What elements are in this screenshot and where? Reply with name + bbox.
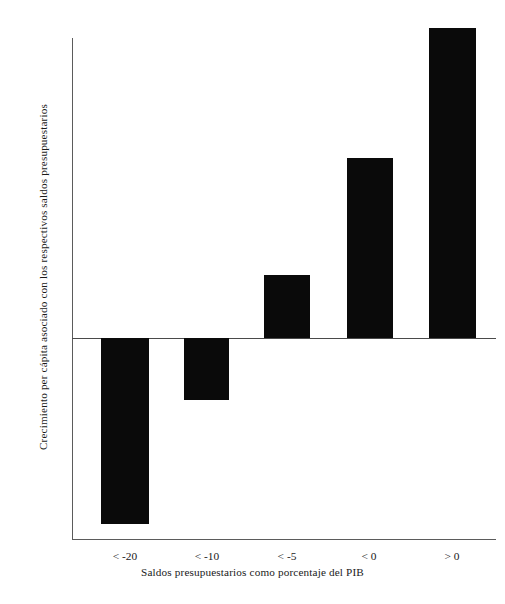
figure-caption — [30, 596, 490, 604]
x-tick-label-gt-zero: > 0 — [407, 550, 497, 562]
x-axis-title: Saldos presupuestarios como porcentaje d… — [0, 566, 505, 578]
bar-chart-figure: Crecimiento per cápita asociado con los … — [0, 0, 505, 604]
y-axis-line — [72, 38, 73, 540]
plot-area: < -20 < -10 < -5 < 0 > 0 — [72, 38, 496, 540]
bar-lt-zero — [347, 158, 393, 338]
x-tick-label-lt-minus-5: < -5 — [242, 550, 332, 562]
x-tick-label-lt-zero: < 0 — [324, 550, 414, 562]
bar-lt-minus-20 — [101, 338, 149, 524]
bar-gt-zero — [429, 28, 476, 338]
x-tick-label-lt-minus-20: < -20 — [80, 550, 170, 562]
y-axis-title: Crecimiento per cápita asociado con los … — [37, 47, 55, 507]
bar-lt-minus-10 — [184, 338, 229, 400]
x-axis-line — [72, 539, 496, 540]
bar-lt-minus-5 — [264, 275, 310, 338]
x-tick-label-lt-minus-10: < -10 — [162, 550, 252, 562]
